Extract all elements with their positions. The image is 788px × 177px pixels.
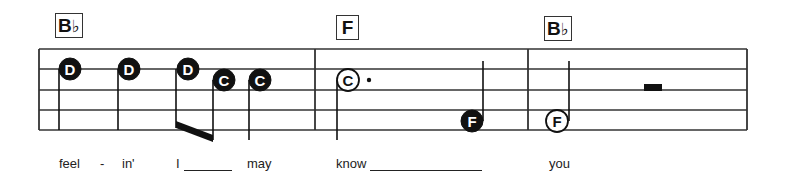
- lyric-syllable: you: [549, 156, 570, 171]
- note-letter: F: [552, 113, 561, 130]
- chord-symbol: F: [336, 15, 359, 40]
- music-staff: DDDCCCFF: [0, 0, 788, 177]
- lyric-syllable: feel: [59, 156, 80, 171]
- flat-icon: ♭: [72, 16, 80, 36]
- eighth-note-beam: [176, 121, 213, 142]
- lyric-syllable: may: [247, 156, 272, 171]
- note-letter: C: [343, 72, 354, 89]
- chord-root: B: [58, 15, 72, 36]
- augmentation-dot-icon: [367, 78, 371, 82]
- note-letter: D: [65, 61, 76, 78]
- lyric-extender-line: [184, 170, 232, 171]
- lead-sheet-score: DDDCCCFF B♭FB♭ feel-in'Imayknowyou: [0, 0, 788, 177]
- note-letter: D: [124, 61, 135, 78]
- note-letter: D: [183, 61, 194, 78]
- lyric-syllable: in': [122, 156, 135, 171]
- chord-root: F: [342, 17, 354, 38]
- note-letter: C: [255, 72, 266, 89]
- lyric-syllable: know: [336, 156, 366, 171]
- lyric-syllable: -: [100, 156, 104, 171]
- note-letter: C: [219, 72, 230, 89]
- lyric-extender-line: [370, 170, 482, 171]
- flat-icon: ♭: [561, 19, 569, 39]
- half-rest-icon: [644, 84, 662, 91]
- note-letter: F: [467, 113, 476, 130]
- chord-symbol: B♭: [544, 16, 572, 41]
- lyric-syllable: I: [176, 156, 180, 171]
- chord-root: B: [547, 18, 561, 39]
- chord-symbol: B♭: [55, 13, 83, 38]
